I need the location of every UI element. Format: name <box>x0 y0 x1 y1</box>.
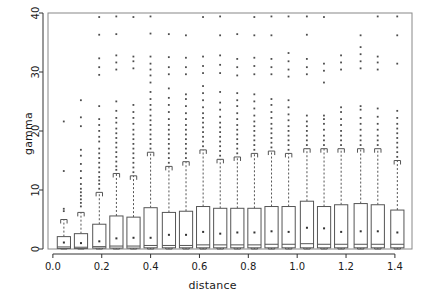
y-axis-title: gamma <box>22 112 35 155</box>
boxplot-box <box>354 34 367 249</box>
svg-text:1.0: 1.0 <box>289 261 305 272</box>
svg-text:40: 40 <box>30 7 41 20</box>
boxplot-box <box>391 16 404 249</box>
svg-text:0.2: 0.2 <box>94 261 110 272</box>
boxplot-box <box>93 16 106 249</box>
boxplot-box <box>371 16 384 249</box>
boxplot-box <box>214 16 227 249</box>
svg-text:0.8: 0.8 <box>240 261 256 272</box>
boxplot-box <box>300 16 313 249</box>
boxplot-box <box>162 33 175 249</box>
boxplot-box <box>335 54 348 249</box>
chart-canvas: 0102030400.00.20.40.60.81.01.21.4 <box>0 0 425 298</box>
boxplot-figure: 0102030400.00.20.40.60.81.01.21.4 gamma … <box>0 0 425 298</box>
boxplot-box <box>265 16 278 249</box>
svg-text:30: 30 <box>30 66 41 79</box>
svg-text:0.0: 0.0 <box>45 261 61 272</box>
boxplot-box <box>57 121 70 249</box>
x-axis-title: distance <box>0 279 425 292</box>
svg-text:1.4: 1.4 <box>387 261 403 272</box>
boxplot-box <box>144 16 157 249</box>
boxplot-box <box>248 16 261 249</box>
boxplot-box <box>74 99 87 249</box>
boxplot-box <box>179 34 192 249</box>
svg-text:0.6: 0.6 <box>192 261 208 272</box>
svg-text:0.4: 0.4 <box>143 261 159 272</box>
svg-text:10: 10 <box>30 184 41 197</box>
boxplot-box <box>127 16 140 249</box>
boxplot-box <box>231 33 244 249</box>
boxplot-box <box>110 16 123 249</box>
boxplot-box <box>282 16 295 249</box>
boxplot-box <box>197 16 210 249</box>
svg-text:0: 0 <box>30 246 41 252</box>
boxplot-box <box>317 16 330 249</box>
svg-text:1.2: 1.2 <box>338 261 354 272</box>
